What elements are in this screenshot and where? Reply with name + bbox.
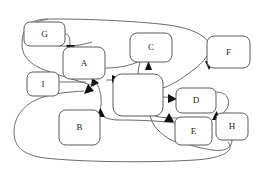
node-center-rect[interactable] [113,74,163,116]
node-a[interactable]: A [63,47,105,79]
node-e-label: E [191,126,197,136]
node-a-label: A [81,58,88,68]
node-e[interactable]: E [175,117,212,145]
node-layer: G A I C F [24,22,250,145]
node-h[interactable]: H [216,113,248,140]
edge-d-to-h [216,92,229,116]
node-c-label: C [148,42,154,52]
node-d[interactable]: D [176,88,216,113]
node-c[interactable]: C [130,33,172,62]
node-b[interactable]: B [59,110,100,145]
edge-a-to-c [105,62,138,68]
edge-center-to-c [138,62,140,74]
node-h-label: H [229,121,236,131]
diagram-canvas: G A I C F [0,0,265,169]
node-center-unlabeled[interactable] [113,74,163,116]
node-b-label: B [76,122,82,132]
edge-g-to-a-left [65,34,70,46]
node-f-label: F [226,47,231,57]
node-i[interactable]: I [27,72,59,96]
node-g-label: G [41,29,48,39]
node-g[interactable]: G [24,22,65,46]
node-i-label: I [42,79,45,89]
node-d-label: D [193,95,200,105]
graph-svg: G A I C F [0,0,265,169]
node-f[interactable]: F [207,36,250,68]
edge-b-to-a [96,82,101,110]
